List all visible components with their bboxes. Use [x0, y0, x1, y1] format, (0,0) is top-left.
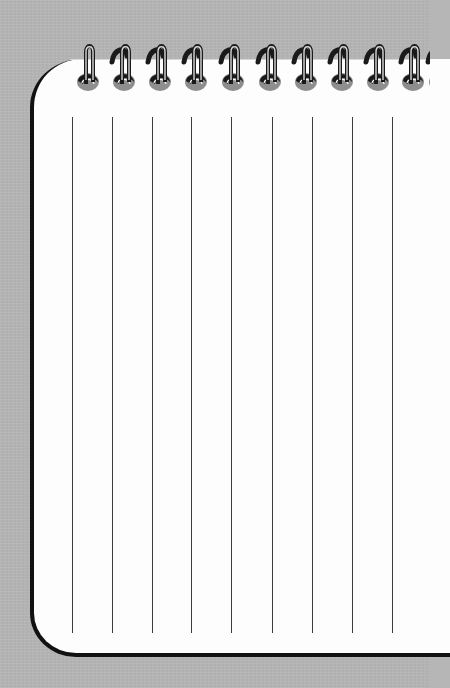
rule-line	[72, 117, 73, 633]
spiral-ring-icon	[428, 46, 430, 91]
spiral-ring-icon	[184, 46, 207, 91]
rule-line	[352, 117, 353, 633]
notepad-page	[30, 59, 450, 657]
spiral-ring-icon	[77, 46, 99, 91]
rule-line	[231, 117, 232, 633]
spiral-ring-icon	[221, 46, 244, 91]
spiral-ring-icon	[401, 46, 424, 91]
spiral-ring-icon	[294, 46, 317, 91]
rule-line	[272, 117, 273, 633]
rule-line	[312, 117, 313, 633]
spiral-ring-icon	[330, 46, 353, 91]
rule-line	[191, 117, 192, 633]
rule-line	[112, 117, 113, 633]
spiral-ring-icon	[112, 46, 135, 91]
spiral-ring-icon	[148, 46, 171, 91]
spiral-ring-icon	[366, 46, 389, 91]
rule-line	[152, 117, 153, 633]
rule-line	[392, 117, 393, 633]
spiral-ring-icon	[258, 46, 281, 91]
spiral-binding	[0, 0, 430, 120]
